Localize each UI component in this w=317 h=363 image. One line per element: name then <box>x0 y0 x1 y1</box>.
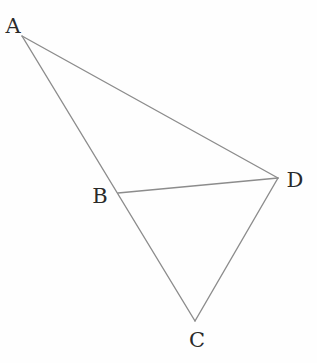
vertex-label-d: D <box>287 170 304 191</box>
diagram-canvas: A B C D <box>0 0 317 363</box>
vertex-label-c: C <box>189 330 205 351</box>
segment-bd <box>118 178 278 193</box>
vertex-label-a: A <box>5 16 20 37</box>
segment-dc <box>195 178 278 321</box>
segment-ac <box>22 36 195 321</box>
geometry-figure <box>0 0 317 363</box>
segment-ad <box>22 36 278 178</box>
vertex-label-b: B <box>92 186 107 207</box>
